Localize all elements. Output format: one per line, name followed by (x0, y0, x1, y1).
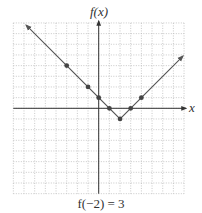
function-graph (0, 0, 202, 213)
function-line (26, 25, 183, 119)
function-value-caption: f(−2) = 3 (0, 196, 202, 212)
data-point (118, 117, 123, 122)
data-point (86, 85, 91, 90)
data-point (64, 63, 69, 68)
x-axis-label: x (189, 100, 195, 116)
data-point (128, 106, 133, 111)
data-point (96, 95, 101, 100)
y-axis-label: f(x) (90, 4, 108, 20)
data-point (107, 106, 112, 111)
data-point (139, 95, 144, 100)
